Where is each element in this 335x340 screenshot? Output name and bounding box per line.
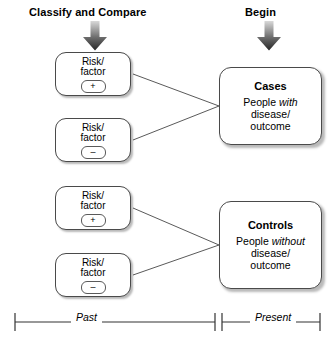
begin-header: Begin <box>245 6 276 18</box>
risk-factor-label-line2: factor <box>80 67 105 78</box>
classify-and-compare-header: Classify and Compare <box>29 6 147 18</box>
cases-description: People with disease/ outcome <box>243 96 297 132</box>
risk-factor-label-line2: factor <box>80 268 105 279</box>
controls-box[interactable]: Controls People without disease/ outcome <box>219 201 322 289</box>
cases-desc-line3: outcome <box>250 120 290 132</box>
cases-title: Cases <box>254 80 286 92</box>
risk-factor-sign-plus: + <box>81 214 106 227</box>
cases-desc-emphasis: with <box>279 96 298 108</box>
classify-and-compare-arrow <box>82 21 108 51</box>
cases-desc-line1-pre: People <box>243 96 279 108</box>
risk-factor-sign-plus: + <box>81 80 106 93</box>
risk-factor-box-cases-positive[interactable]: Risk/ factor + <box>55 52 131 96</box>
timeline-axis <box>0 0 335 340</box>
timeline-label-past: Past <box>71 311 102 323</box>
risk-factor-sign-minus: – <box>81 146 106 159</box>
timeline-label-present: Present <box>250 311 296 323</box>
begin-arrow <box>256 21 282 51</box>
risk-factor-box-cases-negative[interactable]: Risk/ factor – <box>55 118 131 162</box>
controls-desc-emphasis: without <box>272 235 305 247</box>
risk-factor-label-line2: factor <box>80 133 105 144</box>
controls-desc-line2: disease/ <box>251 247 290 259</box>
controls-desc-line1-pre: People <box>236 235 272 247</box>
cases-desc-line2: disease/ <box>251 108 290 120</box>
cases-box[interactable]: Cases People with disease/ outcome <box>219 67 322 145</box>
controls-title: Controls <box>248 219 293 231</box>
connector-lines <box>0 0 335 340</box>
controls-desc-line3: outcome <box>250 259 290 271</box>
risk-factor-label-line2: factor <box>80 201 105 212</box>
risk-factor-box-controls-negative[interactable]: Risk/ factor – <box>55 253 131 297</box>
controls-description: People without disease/ outcome <box>236 235 305 271</box>
risk-factor-sign-minus: – <box>81 281 106 294</box>
case-control-diagram: Classify and Compare Begin R <box>0 0 335 340</box>
risk-factor-box-controls-positive[interactable]: Risk/ factor + <box>55 186 131 230</box>
